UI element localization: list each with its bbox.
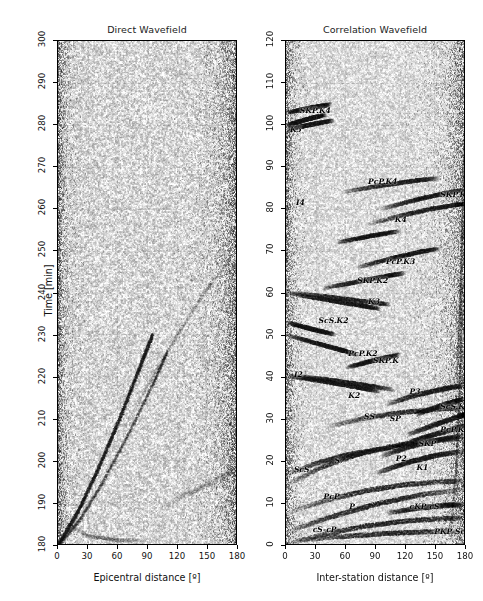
y-tick xyxy=(53,208,57,209)
phase-label: SKP xyxy=(419,439,437,448)
phase-label: SKP.K4 xyxy=(440,190,465,199)
y-tick xyxy=(281,419,285,420)
x-tick xyxy=(117,545,118,549)
y-tick xyxy=(281,40,285,41)
y-tick xyxy=(281,250,285,251)
plot-area-correlation: SKP.K4K5PcP.K4I4SKP.K4K4PcP.K3SKP.K2K3Sc… xyxy=(285,40,465,545)
y-tick xyxy=(53,461,57,462)
phase-label: K2 xyxy=(348,391,360,400)
x-tick xyxy=(435,545,436,549)
x-tick xyxy=(345,545,346,549)
x-tick xyxy=(207,545,208,549)
x-tick xyxy=(237,545,238,549)
panel-title-direct: Direct Wavefield xyxy=(57,24,237,35)
phase-label: K1 xyxy=(417,463,429,472)
ylabel-direct: Time [min] xyxy=(43,161,54,421)
y-tick-label: 0 xyxy=(265,533,275,555)
y-tick xyxy=(281,208,285,209)
y-tick-label: 110 xyxy=(265,70,275,92)
figure-canvas: Direct Wavefield 03060901201501801801902… xyxy=(0,0,483,601)
x-tick-label: 90 xyxy=(361,551,389,561)
phase-label: SS xyxy=(364,412,375,421)
y-tick-label: 10 xyxy=(265,491,275,513)
y-tick xyxy=(53,293,57,294)
y-tick-label: 100 xyxy=(265,112,275,134)
x-tick-label: 90 xyxy=(133,551,161,561)
x-tick-label: 60 xyxy=(103,551,131,561)
phase-label: S xyxy=(335,456,340,465)
y-tick xyxy=(281,503,285,504)
y-tick xyxy=(281,293,285,294)
x-tick-label: 180 xyxy=(223,551,251,561)
y-tick xyxy=(281,335,285,336)
x-tick-label: 30 xyxy=(73,551,101,561)
phase-label: cKP-cS xyxy=(410,502,440,511)
phase-label: cS-cP xyxy=(313,525,337,534)
phase-label: SKP.K4 xyxy=(300,106,331,115)
x-tick xyxy=(147,545,148,549)
x-tick-label: 60 xyxy=(331,551,359,561)
y-tick xyxy=(281,82,285,83)
y-tick xyxy=(281,166,285,167)
x-tick xyxy=(285,545,286,549)
y-tick-label: 90 xyxy=(265,154,275,176)
phase-label: K3 xyxy=(368,297,380,306)
y-tick xyxy=(281,124,285,125)
x-tick xyxy=(405,545,406,549)
y-tick xyxy=(53,377,57,378)
y-tick xyxy=(281,545,285,546)
phase-label: P2 xyxy=(396,454,407,463)
phase-label: P3 xyxy=(410,387,421,396)
xlabel-direct: Epicentral distance [º] xyxy=(57,572,237,583)
phase-label: ScS.K xyxy=(440,402,465,411)
x-tick xyxy=(465,545,466,549)
x-tick xyxy=(87,545,88,549)
y-tick xyxy=(281,461,285,462)
x-tick-label: 0 xyxy=(43,551,71,561)
y-tick-label: 290 xyxy=(37,70,47,92)
y-tick-label: 300 xyxy=(37,28,47,50)
y-tick-label: 120 xyxy=(265,28,275,50)
phase-label: SKP.K2 xyxy=(357,276,388,285)
x-tick-label: 150 xyxy=(193,551,221,561)
y-tick-label: 20 xyxy=(265,449,275,471)
y-tick xyxy=(53,503,57,504)
y-tick xyxy=(53,82,57,83)
x-tick-label: 150 xyxy=(421,551,449,561)
x-tick xyxy=(315,545,316,549)
x-tick-label: 180 xyxy=(451,551,479,561)
phase-label: PcP xyxy=(324,492,340,501)
x-tick xyxy=(57,545,58,549)
phase-label: K5 xyxy=(290,125,302,134)
x-tick-label: 0 xyxy=(271,551,299,561)
panel-title-correlation: Correlation Wavefield xyxy=(285,24,465,35)
y-tick-label: 180 xyxy=(37,533,47,555)
phase-label: SKP.K xyxy=(373,356,399,365)
xlabel-correlation: Inter-station distance [º] xyxy=(285,572,465,583)
y-tick-label: 60 xyxy=(265,281,275,303)
phase-label: PcP.K3 xyxy=(386,257,415,266)
x-tick-label: 120 xyxy=(391,551,419,561)
x-tick xyxy=(177,545,178,549)
y-tick xyxy=(53,250,57,251)
x-tick-label: 120 xyxy=(163,551,191,561)
x-tick-label: 30 xyxy=(301,551,329,561)
y-tick xyxy=(53,40,57,41)
phase-label: K4 xyxy=(395,215,407,224)
phase-label: SP xyxy=(390,414,401,423)
y-tick xyxy=(53,419,57,420)
phase-label: ScS xyxy=(294,465,310,474)
y-tick-label: 70 xyxy=(265,238,275,260)
y-tick-label: 280 xyxy=(37,112,47,134)
phase-label: I4 xyxy=(296,198,305,207)
y-tick-label: 40 xyxy=(265,365,275,387)
y-tick-label: 30 xyxy=(265,407,275,429)
phase-label: PcP.K xyxy=(440,425,464,434)
phase-label: P xyxy=(349,502,355,511)
y-tick xyxy=(53,124,57,125)
y-tick-label: 50 xyxy=(265,323,275,345)
y-tick xyxy=(281,377,285,378)
y-tick-label: 80 xyxy=(265,196,275,218)
phase-label: PKP-ScS xyxy=(434,527,465,536)
plot-area-direct xyxy=(57,40,237,545)
